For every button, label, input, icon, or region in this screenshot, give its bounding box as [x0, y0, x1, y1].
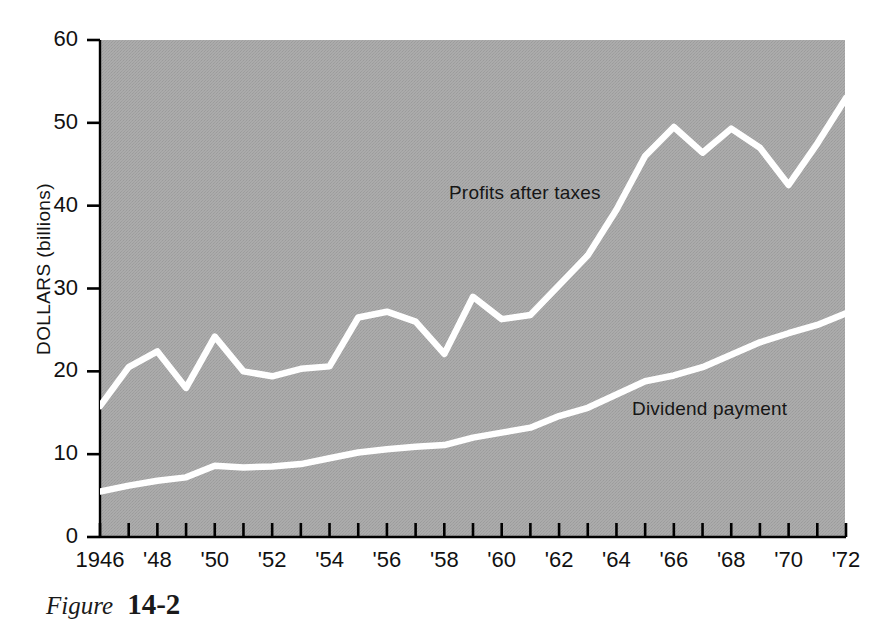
x-axis-tick-label: '68: [717, 549, 746, 571]
x-axis-tick-label: '50: [200, 549, 229, 571]
x-axis-tick-label: '66: [660, 549, 689, 571]
x-axis-tick-label: '64: [602, 549, 631, 571]
plot-background: [100, 40, 845, 537]
x-axis-tick-labels: 1946'48'50'52'54'56'58'60'62'64'66'68'70…: [0, 549, 890, 583]
x-axis-tick-label: '62: [545, 549, 574, 571]
x-axis-tick-label: '54: [315, 549, 344, 571]
x-axis-tick-label: 1946: [76, 549, 125, 571]
figure-caption-word: Figure: [46, 592, 113, 619]
x-axis-tick-label: '56: [373, 549, 402, 571]
x-axis-tick-label: '70: [774, 549, 803, 571]
y-axis-ticks: [87, 40, 100, 537]
series-annotation-profits-after-taxes: Profits after taxes: [449, 182, 601, 204]
series-annotation-dividend-payment: Dividend payment: [632, 398, 787, 420]
x-axis-tick-label: '60: [487, 549, 516, 571]
figure-caption: Figure14-2: [46, 588, 180, 621]
x-axis-tick-label: '72: [832, 549, 861, 571]
figure-caption-number: 14-2: [127, 588, 180, 620]
x-axis-tick-label: '48: [143, 549, 172, 571]
x-axis-tick-label: '52: [258, 549, 287, 571]
x-axis-tick-label: '58: [430, 549, 459, 571]
